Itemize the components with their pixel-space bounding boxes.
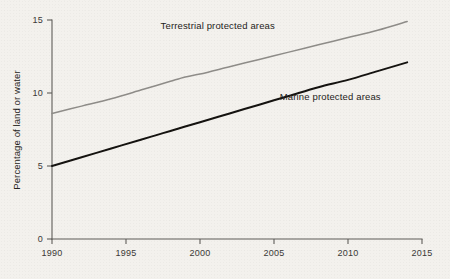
x-tick-label: 2005 — [264, 248, 285, 258]
annotation-marine-protected-areas: Marine protected areas — [280, 91, 381, 102]
y-tick-label: 5 — [38, 161, 43, 171]
x-tick-label: 2015 — [412, 248, 433, 258]
x-tick-label: 1995 — [116, 248, 137, 258]
y-tick-label: 10 — [33, 88, 43, 98]
series-line-marine-protected-areas — [52, 62, 407, 166]
y-tick-label: 15 — [33, 15, 43, 25]
x-axis-ticks: 199019952000200520102015 — [42, 239, 433, 258]
x-tick-label: 2010 — [338, 248, 359, 258]
y-axis-title: Percentage of land or water — [11, 70, 22, 189]
annotation-terrestrial-protected-areas: Terrestrial protected areas — [161, 20, 276, 31]
chart-page: Percentage of land or water 051015 19901… — [0, 0, 450, 279]
line-chart: Percentage of land or water 051015 19901… — [0, 0, 450, 279]
y-tick-label: 0 — [38, 234, 43, 244]
x-tick-label: 1990 — [42, 248, 63, 258]
x-tick-label: 2000 — [190, 248, 211, 258]
series-annotations: Terrestrial protected areasMarine protec… — [161, 20, 381, 101]
y-axis-ticks: 051015 — [33, 15, 52, 244]
